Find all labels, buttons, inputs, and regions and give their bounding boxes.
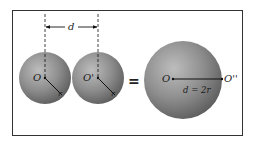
merged-far-point [221,78,223,80]
left-center-point [44,77,46,79]
merged-sphere-body [144,41,222,119]
middle-center-point [97,77,99,79]
merged-far-label: O'' [224,73,238,84]
coalescence-diagram: O r O' r d = O O'' d = 2r [0,0,255,143]
equals-sign: = [128,73,140,89]
merged-relation-label: d = 2r [183,85,211,95]
left-center-label: O [33,72,41,83]
separation-label: d [68,21,74,32]
middle-center-label: O' [83,72,94,83]
merged-center-point [172,78,174,80]
merged-center-label: O [162,73,170,84]
